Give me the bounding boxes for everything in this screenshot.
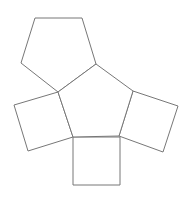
bottom-square [73,137,120,185]
net-drawing [0,0,190,201]
pentagon-net-diagram [0,0,190,201]
